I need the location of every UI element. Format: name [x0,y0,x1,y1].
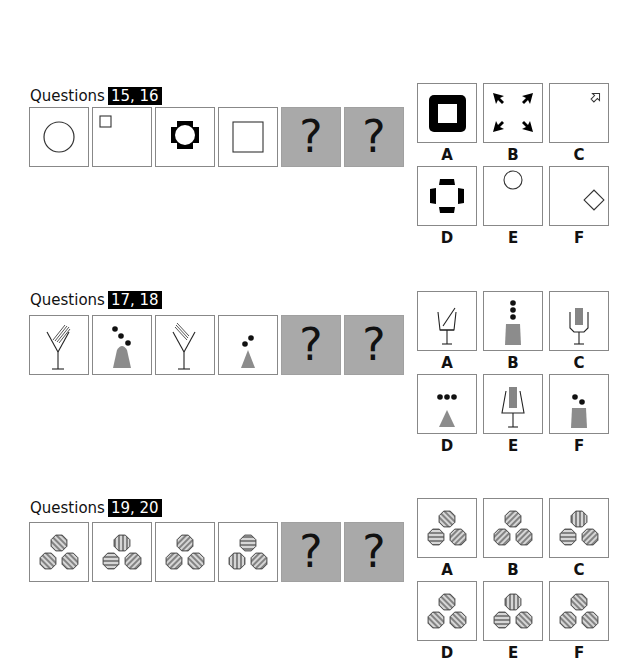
answer-option-c[interactable] [549,83,609,143]
square-outline-center-figure [219,108,277,166]
black-four-bars-cross-figure [418,167,476,225]
sequence-cell [92,522,152,582]
fork-glass-with-four-sticks-figure [550,292,608,350]
puzzle-2-title: Questions17, 18 [30,290,162,310]
gray-trapezoid-icon [571,408,587,428]
hatched-octagon-vertical [505,594,521,610]
answer-option-c[interactable] [549,498,609,558]
puzzle-title-label: Questions [30,87,105,105]
puzzle-title-label: Questions [30,499,105,517]
puzzle-3-title: Questions19, 20 [30,498,162,518]
sequence-cell [218,315,278,375]
circle-icon [44,122,74,152]
hatched-octagon-slash [251,553,267,569]
unknown-sequence-cell: ? [344,107,404,167]
dot-icon [451,394,457,400]
question-mark: ? [345,523,403,581]
answer-option-c[interactable] [549,291,609,351]
diamond-outline-right-figure [550,167,608,225]
question-mark: ? [282,108,340,166]
sequence-cell [218,522,278,582]
hatched-octagon-horizontal [494,612,510,628]
circle-outline-top-figure [484,167,542,225]
dot-icon [579,399,585,405]
dot-icon [510,307,516,313]
answer-label-f: F [549,229,609,247]
answer-label-c: C [549,354,609,372]
hatched-octagon-slash [582,529,598,545]
sequence-cell [29,107,89,167]
wide-glass-icon [502,387,524,427]
three-hatched-octagons-figure [30,523,88,581]
three-hatched-octagons-figure [484,499,542,557]
three-hatched-octagons-figure [550,582,608,640]
hatched-octagon-slash [166,553,182,569]
answer-label-c: C [549,561,609,579]
hatched-octagon-horizontal [560,529,576,545]
hatched-octagon-backslash [582,612,598,628]
circle-icon [504,171,522,189]
answer-option-e[interactable] [483,581,543,641]
gray-trapezoid-with-three-vertical-dots-figure [484,292,542,350]
four-black-arrows-inward-figure [484,84,542,142]
hatched-octagon-slash [125,553,141,569]
hatched-octagon-backslash [62,553,78,569]
answer-option-a[interactable] [417,291,477,351]
answer-label-b: B [483,146,543,164]
question-mark: ? [345,108,403,166]
answer-option-d[interactable] [417,581,477,641]
answer-option-d[interactable] [417,166,477,226]
answer-label-d: D [417,644,477,660]
question-mark: ? [282,523,340,581]
hatched-octagon-slash [516,529,532,545]
question-mark: ? [345,316,403,374]
dot-icon [510,314,516,320]
three-hatched-octagons-figure [156,523,214,581]
hatched-octagon-vertical [571,511,587,527]
answer-option-a[interactable] [417,498,477,558]
unknown-sequence-cell: ? [281,522,341,582]
answer-option-b[interactable] [483,498,543,558]
small-square-icon [100,116,111,127]
small-arrow-outline-top-right-figure [550,84,608,142]
three-hatched-octagons-figure [418,582,476,640]
three-hatched-octagons-figure [550,499,608,557]
hatched-octagon-backslash [450,612,466,628]
fork-glass-icon [570,308,588,344]
answer-label-f: F [549,644,609,660]
hatched-octagon-backslash [516,612,532,628]
hatched-octagon-slash [505,511,521,527]
hatched-octagon-backslash [560,612,576,628]
answer-label-a: A [417,354,477,372]
dot-icon [118,333,124,339]
thick-square-ring-icon [429,95,466,132]
answer-option-f[interactable] [549,581,609,641]
sequence-cell [155,315,215,375]
gray-trapezoid-icon [505,324,521,345]
dot-icon [444,394,450,400]
martini-glass-icon [173,332,195,369]
answer-label-e: E [483,644,543,660]
four-bars-cross-icon [430,179,464,213]
hatched-octagon-vertical [114,535,130,551]
answer-option-b[interactable] [483,83,543,143]
answer-label-c: C [549,146,609,164]
martini-glass-with-hatched-stirrer-right-figure [30,316,88,374]
answer-option-f[interactable] [549,374,609,434]
unknown-sequence-cell: ? [344,522,404,582]
square-icon [233,122,263,152]
hatched-stirrer-icon [175,323,189,340]
answer-option-b[interactable] [483,291,543,351]
answer-label-a: A [417,146,477,164]
answer-option-d[interactable] [417,374,477,434]
hatched-octagon-horizontal [428,529,444,545]
answer-label-e: E [483,437,543,455]
hatched-octagon-backslash [439,511,455,527]
answer-option-f[interactable] [549,166,609,226]
answer-option-e[interactable] [483,166,543,226]
answer-option-e[interactable] [483,374,543,434]
unknown-sequence-cell: ? [344,315,404,375]
gray-triangle-icon [241,350,255,368]
question-numbers-badge: 19, 20 [108,499,162,517]
answer-option-a[interactable] [417,83,477,143]
